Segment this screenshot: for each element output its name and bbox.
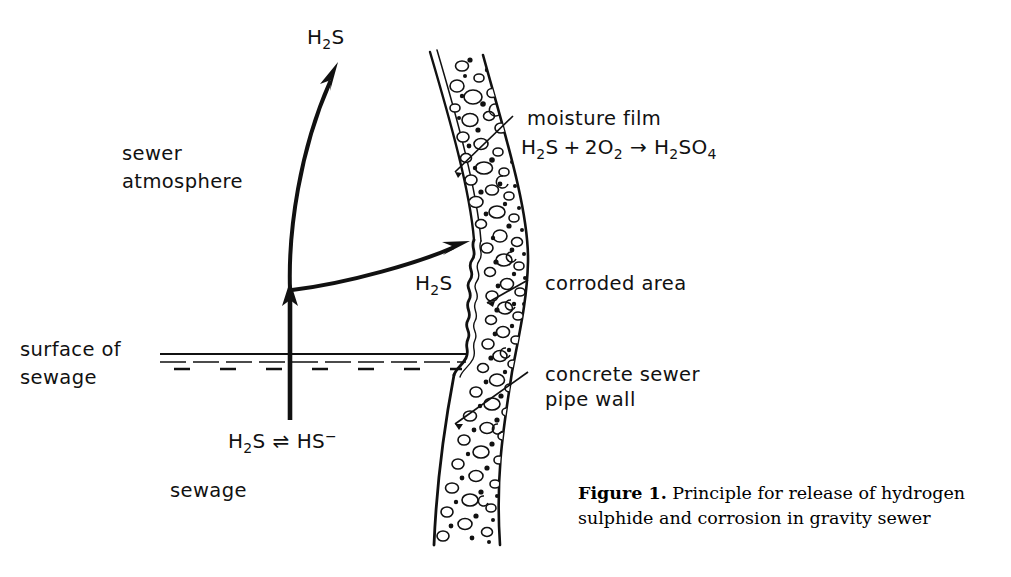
label-sewage: sewage — [170, 479, 247, 502]
arrow-release-vertical — [282, 281, 298, 420]
label-pipe-wall-2: pipe wall — [545, 388, 636, 411]
figure-caption-line1: Figure 1. Principle for release of hydro… — [578, 483, 965, 503]
figure-page: H2S sewer atmosphere surface of sewage s… — [0, 0, 1011, 577]
leader-pipe-wall-tick — [455, 424, 463, 430]
label-moisture-film: moisture film — [527, 107, 661, 130]
arrow-h2s-to-atmosphere — [290, 62, 338, 290]
label-sewer-atmosphere-2: atmosphere — [122, 170, 243, 193]
sewage-surface-line — [160, 354, 466, 369]
label-surface-of-2: sewage — [20, 366, 97, 389]
label-pipe-wall-1: concrete sewer — [545, 363, 700, 386]
wall-inner-edge-lower — [434, 375, 454, 545]
concrete-pipe-wall — [430, 50, 528, 545]
label-corroded-area: corroded area — [545, 272, 686, 295]
label-h2s-transfer: H2S — [415, 271, 453, 298]
figure-caption-line2: sulphide and corrosion in gravity sewer — [578, 508, 931, 528]
concrete-aggregate-texture — [437, 57, 527, 544]
sewer-corrosion-diagram: H2S sewer atmosphere surface of sewage s… — [0, 0, 1011, 577]
equation-dissociation: H2S⇌HS− — [228, 428, 337, 456]
label-surface-of-1: surface of — [20, 338, 122, 361]
leader-moisture-film-tick — [455, 172, 462, 178]
label-h2s-top: H2S — [307, 25, 345, 52]
label-sewer-atmosphere-1: sewer — [122, 142, 183, 165]
equation-oxidation: H2S+2O2→H2SO4 — [521, 135, 717, 162]
